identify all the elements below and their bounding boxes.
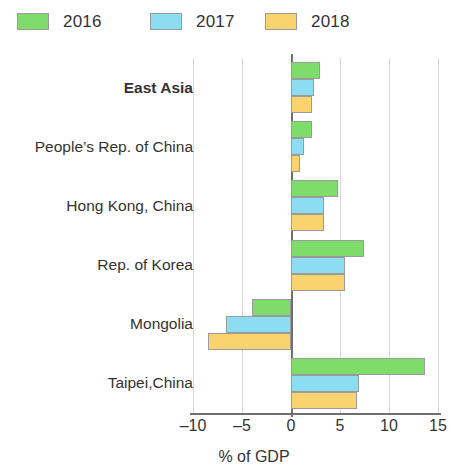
bar: [291, 197, 324, 214]
x-tick-label: 5: [320, 418, 360, 434]
bar: [291, 155, 300, 172]
bar-group: [193, 180, 438, 231]
bar: [291, 62, 320, 79]
bar-group: [193, 121, 438, 172]
x-tick-label: –10: [173, 418, 213, 434]
category-label: Hong Kong, China: [0, 198, 193, 214]
category-label: Rep. of Korea: [0, 257, 193, 273]
legend-swatch-2018-icon: [265, 13, 297, 30]
bar: [291, 138, 304, 155]
legend-item-2016: 2016: [17, 10, 102, 32]
x-axis-line: [190, 413, 441, 415]
bar: [291, 375, 359, 392]
bar: [291, 214, 324, 231]
plot-area: [193, 58, 438, 413]
legend-swatch-2016-icon: [17, 13, 49, 30]
bar-chart: % of GDP East AsiaPeople’s Rep. of China…: [0, 44, 446, 475]
category-label: People’s Rep. of China: [0, 139, 193, 155]
bar: [291, 358, 425, 375]
bar-group: [193, 299, 438, 350]
legend-item-2018: 2018: [265, 10, 350, 32]
bar-group: [193, 240, 438, 291]
x-axis-title: % of GDP: [0, 448, 446, 466]
x-tick-label: 0: [271, 418, 311, 434]
gridline-15: [438, 58, 439, 413]
legend-label-2018: 2018: [311, 13, 350, 30]
bar: [291, 121, 312, 138]
x-tick-label: 15: [418, 418, 451, 434]
x-tick-label: –5: [222, 418, 262, 434]
bar: [291, 79, 314, 96]
bar: [291, 180, 338, 197]
bar: [291, 392, 357, 409]
legend-label-2016: 2016: [63, 13, 102, 30]
category-label: Mongolia: [0, 316, 193, 332]
bar-group: [193, 62, 438, 113]
bar: [291, 274, 345, 291]
legend-label-2017: 2017: [196, 13, 235, 30]
bar: [226, 316, 291, 333]
bar: [208, 333, 291, 350]
bar: [291, 257, 345, 274]
category-label: Taipei,China: [0, 375, 193, 391]
category-label: East Asia: [0, 80, 193, 96]
chart-legend: 2016 2017 2018: [0, 0, 446, 44]
bar-group: [193, 358, 438, 409]
legend-item-2017: 2017: [150, 10, 235, 32]
x-tick-label: 10: [369, 418, 409, 434]
bar: [291, 96, 312, 113]
legend-swatch-2017-icon: [150, 13, 182, 30]
bar: [252, 299, 291, 316]
bar: [291, 240, 364, 257]
x-axis-title-text: % of GDP: [218, 448, 289, 465]
